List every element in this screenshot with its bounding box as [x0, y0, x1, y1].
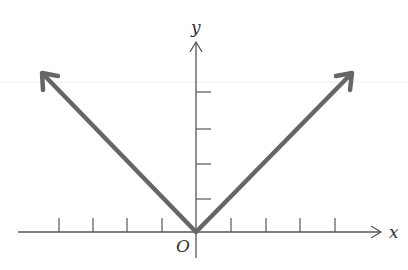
origin-label: O: [176, 236, 190, 256]
x-axis-label: x: [389, 222, 399, 242]
graph-canvas: y x O: [0, 0, 408, 270]
y-axis-label: y: [190, 17, 201, 37]
abs-value-curve: [42, 73, 352, 232]
y-axis-ticks: [196, 92, 211, 199]
